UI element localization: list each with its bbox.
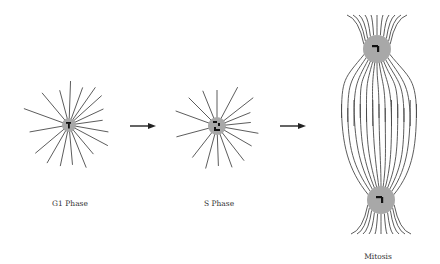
astral-fiber bbox=[351, 205, 368, 234]
spindle-fiber bbox=[394, 104, 417, 195]
spindle-fiber bbox=[381, 61, 391, 126]
microtubule bbox=[71, 130, 86, 168]
microtubule bbox=[217, 133, 218, 166]
mitotic-spindle bbox=[342, 15, 417, 234]
astral-fiber bbox=[394, 205, 411, 234]
astral-fiber bbox=[388, 212, 393, 234]
spindle-fiber bbox=[385, 100, 391, 188]
astral-fiber bbox=[363, 210, 372, 234]
spindle-fiber bbox=[348, 57, 367, 122]
astral-fiber bbox=[359, 15, 368, 39]
astral-fiber bbox=[380, 15, 383, 35]
astral-fiber bbox=[390, 15, 407, 44]
microtubule bbox=[176, 128, 210, 137]
spindle-fiber bbox=[385, 59, 404, 122]
centrosome bbox=[208, 117, 226, 135]
s-phase-aster bbox=[176, 87, 259, 168]
microtubule bbox=[223, 130, 252, 147]
centriole-icon bbox=[381, 197, 383, 203]
g1-aster bbox=[24, 81, 108, 168]
microtubule bbox=[223, 98, 254, 122]
spindle-fiber bbox=[390, 54, 417, 118]
microtubule bbox=[71, 87, 83, 120]
cell-cycle-diagram: G1 Phase S Phase Mitosis bbox=[0, 0, 440, 264]
astral-fiber bbox=[369, 212, 374, 234]
astral-fiber bbox=[386, 15, 395, 39]
arrowhead-icon bbox=[298, 123, 306, 129]
astral-fiber bbox=[371, 15, 374, 35]
centriole-icon bbox=[218, 123, 220, 126]
microtubule bbox=[69, 130, 72, 165]
spindle-fiber bbox=[366, 61, 372, 122]
microtubule bbox=[220, 87, 237, 120]
astral-fiber bbox=[384, 15, 389, 37]
astral-fiber bbox=[384, 214, 387, 234]
microtubule bbox=[224, 122, 251, 125]
s-phase-label: S Phase bbox=[204, 199, 234, 208]
g1-phase-label: G1 Phase bbox=[52, 199, 88, 208]
microtubule bbox=[69, 81, 70, 120]
microtubule bbox=[224, 127, 258, 133]
astral-fiber bbox=[347, 15, 364, 44]
spindle-fiber bbox=[383, 108, 385, 187]
astral-fiber bbox=[375, 214, 378, 234]
spindle-fiber bbox=[360, 61, 370, 118]
spindle-fiber bbox=[379, 104, 381, 187]
centriole-icon bbox=[68, 124, 70, 129]
astral-fiber bbox=[390, 210, 399, 234]
centriole-icon bbox=[214, 127, 216, 131]
microtubule bbox=[47, 129, 67, 163]
centriole-icon bbox=[216, 129, 220, 131]
microtubule bbox=[176, 111, 211, 124]
arrowhead-icon bbox=[148, 123, 156, 129]
mitosis-label: Mitosis bbox=[364, 252, 392, 261]
microtubule bbox=[189, 98, 212, 121]
microtubule bbox=[203, 91, 215, 120]
spindle-fiber bbox=[367, 108, 377, 188]
diagram-canvas bbox=[0, 0, 440, 264]
spindle-fiber bbox=[392, 100, 411, 192]
microtubule bbox=[74, 126, 108, 132]
microtubule bbox=[35, 128, 65, 153]
centriole-icon bbox=[213, 121, 217, 123]
microtubule bbox=[30, 126, 64, 132]
microtubule bbox=[60, 130, 68, 166]
microtubule bbox=[24, 109, 64, 124]
spindle-fiber bbox=[388, 57, 411, 126]
astral-fiber bbox=[365, 15, 370, 37]
centriole-icon bbox=[377, 46, 379, 52]
